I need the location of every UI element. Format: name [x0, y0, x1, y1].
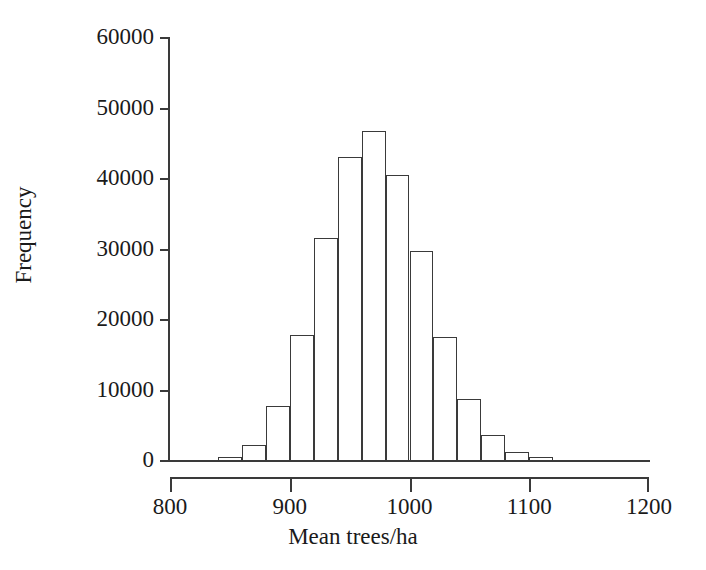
y-axis-tick-labels: 0100002000030000400005000060000 — [58, 0, 154, 570]
x-tick-mark — [647, 477, 649, 492]
x-tick-label: 1000 — [365, 494, 455, 520]
x-tick-mark — [529, 477, 531, 492]
y-tick-label: 60000 — [58, 25, 154, 48]
y-tick-mark — [160, 108, 169, 110]
x-axis-label: Mean trees/ha — [0, 524, 706, 550]
histogram-bar — [266, 406, 290, 460]
histogram-bar — [529, 457, 553, 460]
y-tick-mark — [160, 249, 169, 251]
y-axis-label: Frequency — [11, 165, 37, 305]
histogram-bar — [505, 452, 529, 460]
histogram-figure: Frequency 010000200003000040000500006000… — [0, 0, 706, 570]
plot-area — [168, 37, 650, 462]
x-tick-mark — [170, 477, 172, 492]
histogram-bar — [386, 175, 410, 460]
histogram-bar — [218, 457, 242, 460]
histogram-bar — [242, 445, 266, 461]
histogram-bar — [481, 435, 505, 460]
histogram-bar — [314, 238, 338, 460]
y-tick-mark — [160, 37, 169, 39]
x-tick-mark — [410, 477, 412, 492]
histogram-bars — [168, 37, 650, 462]
x-tick-label: 1100 — [484, 494, 574, 520]
histogram-bar — [338, 157, 362, 460]
y-tick-mark — [160, 390, 169, 392]
histogram-bar — [457, 399, 481, 460]
y-tick-label: 50000 — [58, 96, 154, 119]
histogram-bar — [362, 131, 386, 460]
y-tick-mark — [160, 319, 169, 321]
y-tick-label: 30000 — [58, 237, 154, 260]
x-tick-label: 1200 — [604, 494, 694, 520]
y-tick-label: 0 — [58, 448, 154, 471]
histogram-bar — [410, 251, 434, 460]
y-tick-label: 20000 — [58, 307, 154, 330]
histogram-bar — [433, 337, 457, 460]
x-tick-mark — [290, 477, 292, 492]
y-tick-mark — [160, 178, 169, 180]
x-tick-label: 800 — [125, 494, 215, 520]
histogram-bar — [290, 335, 314, 460]
y-tick-mark — [160, 460, 169, 462]
y-tick-label: 10000 — [58, 378, 154, 401]
y-tick-label: 40000 — [58, 166, 154, 189]
x-axis-scale — [170, 477, 649, 492]
x-tick-label: 900 — [245, 494, 335, 520]
